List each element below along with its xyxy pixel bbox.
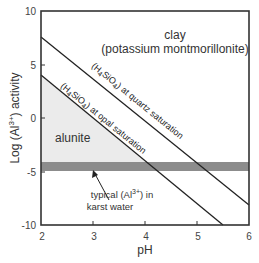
x-axis-title: pH: [137, 243, 152, 257]
karst-annotation-line2: karst water: [87, 201, 133, 212]
x-tick-3: 3: [91, 231, 97, 242]
karst-annotation-line1: typical (Al3+) in: [91, 188, 153, 200]
alunite-label: alunite: [55, 131, 91, 145]
karst-water-band: [41, 162, 249, 171]
x-tick-4: 4: [143, 231, 149, 242]
x-tick-6: 6: [246, 231, 252, 242]
y-tick-5: 5: [30, 60, 36, 71]
clay-label: clay: [164, 28, 185, 42]
x-tick-2: 2: [39, 231, 45, 242]
chart: 10 5 0 -5 -10 2 3 4 5 6 pH Log (Al3+) ac…: [0, 0, 259, 263]
x-tick-5: 5: [195, 231, 201, 242]
y-axis-title: Log (Al3+) activity: [7, 72, 22, 163]
clay-sublabel: (potassium montmorillonite): [101, 42, 248, 56]
y-tick-0: 0: [30, 113, 36, 124]
y-tick-neg5: -5: [27, 167, 36, 178]
y-tick-10: 10: [25, 6, 37, 17]
y-tick-neg10: -10: [22, 220, 37, 231]
